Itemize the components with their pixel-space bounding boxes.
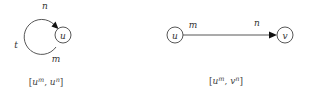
loop-label-top: n (42, 1, 48, 11)
edge-label-target: n (254, 18, 260, 28)
loop-caption: [um, un] (29, 76, 64, 87)
loop-label-bottom: m (52, 54, 61, 64)
edge-label-source: m (189, 20, 198, 30)
edge-caption: [um, vn] (209, 75, 243, 86)
edge-diagram: u v m n [um, vn] (167, 18, 293, 86)
loop-label-left: t (14, 40, 18, 50)
loop-edge (24, 19, 56, 54)
loop-node-u-label: u (60, 31, 66, 41)
edge-node-v-label: v (282, 31, 287, 41)
loop-diagram: u n t m [um, un] (14, 1, 71, 87)
edge-node-u-label: u (172, 31, 178, 41)
edge-arrowhead-icon (269, 32, 277, 39)
diagram-canvas: u n t m [um, un] u v m n [um, vn] (0, 0, 311, 95)
